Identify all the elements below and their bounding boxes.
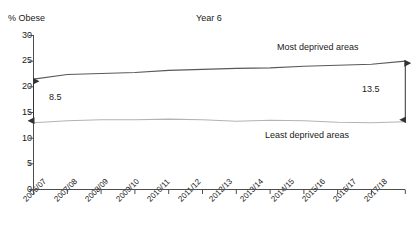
obesity-trend-chart: % Obese Year 6 Most deprived areas Least… xyxy=(0,0,416,244)
y-axis-ticks xyxy=(29,36,34,190)
series-line-least-deprived xyxy=(34,119,406,123)
x-axis-ticks xyxy=(34,190,406,195)
series-line-most-deprived xyxy=(34,61,406,79)
axis-lines xyxy=(34,35,406,190)
chart-canvas xyxy=(0,0,416,244)
